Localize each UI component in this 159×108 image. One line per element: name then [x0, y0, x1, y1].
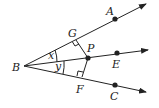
- angle-arc-y: [63, 61, 64, 74]
- label-A: A: [105, 5, 114, 18]
- label-G: G: [68, 27, 77, 40]
- segment-PF: [82, 58, 88, 77]
- label-P: P: [86, 42, 95, 55]
- label-C: C: [110, 90, 119, 103]
- label-F: F: [75, 83, 84, 96]
- label-E: E: [111, 58, 120, 71]
- point-P: [85, 55, 90, 60]
- ray-BC: [24, 66, 146, 92]
- label-angle-x: x: [48, 49, 55, 62]
- point-C: [112, 82, 117, 87]
- label-B: B: [11, 61, 20, 74]
- angle-diagram: A G P E B F C x y: [0, 0, 159, 108]
- point-E: [114, 50, 119, 55]
- label-angle-y: y: [54, 60, 62, 73]
- ray-BA: [24, 4, 146, 66]
